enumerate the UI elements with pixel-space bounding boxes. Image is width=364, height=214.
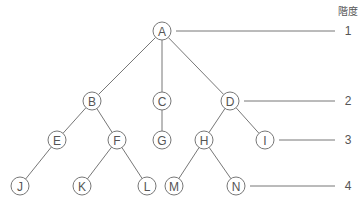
level-label-4: 4 xyxy=(345,179,352,193)
level-label-3: 3 xyxy=(345,133,352,147)
edge-D-H xyxy=(209,108,225,132)
edge-E-J xyxy=(26,147,52,179)
svg-text:I: I xyxy=(263,134,266,148)
svg-text:F: F xyxy=(113,134,120,148)
edge-F-L xyxy=(122,148,142,179)
node-M: M xyxy=(165,177,183,195)
svg-text:C: C xyxy=(158,95,167,109)
node-F: F xyxy=(108,131,126,149)
edge-D-I xyxy=(236,108,259,134)
nodes: ABCDEFGHIJKLMN xyxy=(11,22,274,195)
edge-H-M xyxy=(179,148,199,179)
edge-F-K xyxy=(87,147,111,179)
level-label-2: 2 xyxy=(345,94,352,108)
node-L: L xyxy=(138,177,156,195)
svg-text:K: K xyxy=(78,180,86,194)
edge-H-N xyxy=(209,147,231,178)
tree-diagram: 1234 ABCDEFGHIJKLMN 階度 xyxy=(0,0,364,214)
svg-text:H: H xyxy=(200,134,209,148)
edge-A-B xyxy=(98,37,155,94)
svg-text:A: A xyxy=(158,25,166,39)
node-E: E xyxy=(48,131,66,149)
edge-B-F xyxy=(97,109,112,133)
node-J: J xyxy=(11,177,29,195)
svg-text:N: N xyxy=(232,180,241,194)
svg-text:D: D xyxy=(226,95,235,109)
node-K: K xyxy=(73,177,91,195)
svg-text:E: E xyxy=(53,134,61,148)
node-I: I xyxy=(256,131,274,149)
node-D: D xyxy=(221,92,239,110)
node-B: B xyxy=(83,92,101,110)
level-label-1: 1 xyxy=(345,24,352,38)
node-H: H xyxy=(195,131,213,149)
svg-text:J: J xyxy=(17,180,23,194)
level-indicators: 1234 xyxy=(176,24,352,193)
svg-text:M: M xyxy=(169,180,179,194)
node-N: N xyxy=(227,177,245,195)
svg-text:B: B xyxy=(88,95,96,109)
edge-B-E xyxy=(63,108,86,134)
svg-text:G: G xyxy=(157,134,166,148)
node-G: G xyxy=(153,131,171,149)
node-A: A xyxy=(153,22,171,40)
svg-text:L: L xyxy=(144,180,151,194)
node-C: C xyxy=(153,92,171,110)
edge-A-D xyxy=(168,37,223,94)
level-header: 階度 xyxy=(338,5,358,17)
